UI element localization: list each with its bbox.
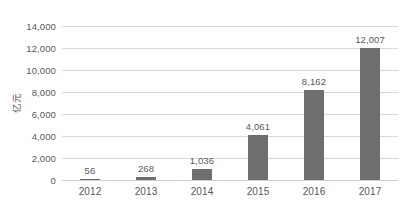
bar-value-label: 12,007 xyxy=(355,34,385,45)
bar-slot: 12,007 xyxy=(342,26,398,180)
bar[interactable] xyxy=(248,135,268,180)
y-axis-tick-label: 0 xyxy=(0,175,56,186)
bar[interactable] xyxy=(80,179,100,181)
y-axis-tick-label: 8,000 xyxy=(0,87,56,98)
bar-value-label: 8,162 xyxy=(302,76,326,87)
y-axis-tick-label: 6,000 xyxy=(0,109,56,120)
y-axis-tick-label: 2,000 xyxy=(0,153,56,164)
bar-slot: 8,162 xyxy=(286,26,342,180)
x-axis-tick-label: 2016 xyxy=(286,186,342,197)
x-axis-tick-label: 2012 xyxy=(62,186,118,197)
bar-chart: 亿元 02,0004,0006,0008,00010,00012,00014,0… xyxy=(0,0,408,216)
bar-slot: 268 xyxy=(118,26,174,180)
y-axis-tick-label: 4,000 xyxy=(0,131,56,142)
x-axis-tick-label: 2015 xyxy=(230,186,286,197)
bar-slot: 1,036 xyxy=(174,26,230,180)
bar-value-label: 1,036 xyxy=(190,155,214,166)
bar-value-label: 4,061 xyxy=(246,121,270,132)
bar-value-label: 56 xyxy=(85,165,96,176)
plot-area: 562681,0364,0618,16212,007 xyxy=(62,26,398,180)
x-axis-tick-label: 2013 xyxy=(118,186,174,197)
bar[interactable] xyxy=(304,90,324,180)
bar-value-label: 268 xyxy=(138,163,154,174)
x-axis-tick-label: 2017 xyxy=(342,186,398,197)
y-axis-tick-label: 10,000 xyxy=(0,65,56,76)
bar[interactable] xyxy=(136,177,156,180)
bar-slot: 4,061 xyxy=(230,26,286,180)
bar-slot: 56 xyxy=(62,26,118,180)
y-axis-tick-label: 12,000 xyxy=(0,43,56,54)
bar[interactable] xyxy=(360,48,380,180)
x-axis-tick-label: 2014 xyxy=(174,186,230,197)
gridline xyxy=(62,180,398,181)
y-axis-tick-label: 14,000 xyxy=(0,21,56,32)
bar[interactable] xyxy=(192,169,212,180)
